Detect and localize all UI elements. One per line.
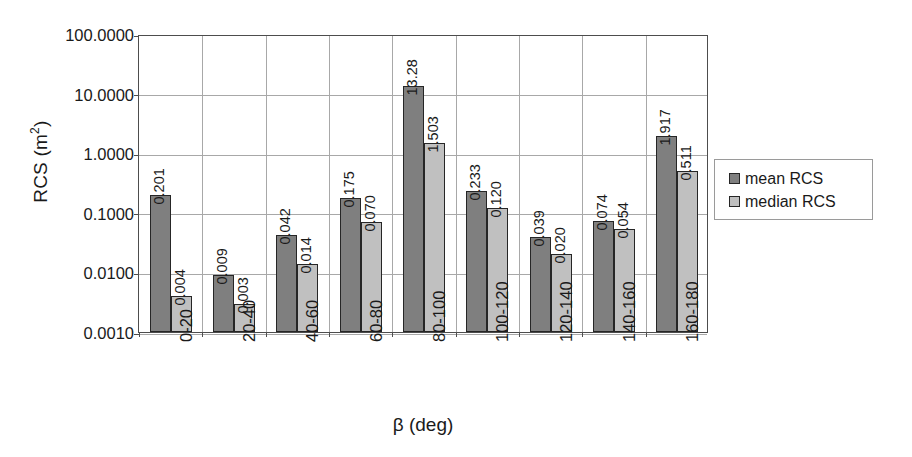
category-separator [329, 36, 330, 332]
y-axis-tick-labels: 100.000010.00001.00000.10000.01000.0010 [38, 0, 134, 457]
legend-item[interactable]: mean RCS [729, 167, 872, 190]
bar-value-label: 0.511 [679, 145, 694, 180]
x-tick-mark [519, 332, 520, 337]
x-tick-mark [202, 332, 203, 337]
bar-value-label: 0.120 [489, 181, 504, 217]
x-tick-mark [329, 332, 330, 337]
legend-swatch-mean [729, 173, 740, 184]
bar-value-label: 0.070 [362, 195, 377, 231]
x-tick-mark [266, 332, 267, 337]
x-tick-mark [646, 332, 647, 337]
bar-value-label: 1.917 [658, 110, 673, 146]
bar-value-label: 0.009 [215, 248, 230, 284]
bar-mean-rcs [466, 191, 487, 332]
y-tick-mark [134, 155, 139, 156]
legend-item-label: mean RCS [745, 170, 823, 188]
bar-mean-rcs [530, 237, 551, 332]
bar-value-label: 0.004 [172, 269, 187, 305]
bar-value-label: 0.201 [151, 168, 166, 204]
bar-mean-rcs [593, 221, 614, 332]
y-tick-mark [134, 95, 139, 96]
x-tick-mark [456, 332, 457, 337]
y-tick-label: 0.0010 [38, 325, 134, 342]
bar-mean-rcs [656, 136, 677, 332]
bar-value-label: 0.039 [531, 210, 546, 246]
x-tick-label: 60-80 [368, 300, 385, 342]
bar-value-label: 0.054 [616, 202, 631, 238]
x-tick-label: 40-60 [304, 300, 321, 342]
legend-swatch-median [729, 196, 740, 207]
y-tick-label: 0.1000 [38, 206, 134, 223]
x-tick-label: 160-180 [684, 281, 701, 342]
x-tick-mark [392, 332, 393, 337]
y-tick-mark [134, 36, 139, 37]
bar-value-label: 13.28 [405, 59, 420, 95]
bar-value-label: 0.042 [278, 208, 293, 244]
y-tick-label: 10.0000 [38, 87, 134, 104]
bar-mean-rcs [340, 198, 361, 332]
x-tick-label: 100-120 [494, 281, 511, 342]
x-tick-mark [582, 332, 583, 337]
x-tick-label: 120-140 [558, 281, 575, 342]
x-axis-title: β (deg) [138, 414, 708, 436]
category-separator [392, 36, 393, 332]
category-separator [266, 36, 267, 332]
bar-value-label: 0.233 [468, 164, 483, 200]
y-tick-label: 100.0000 [38, 27, 134, 44]
x-tick-label: 80-100 [431, 291, 448, 342]
y-tick-label: 0.0100 [38, 265, 134, 282]
bar-mean-rcs [403, 86, 424, 332]
y-tick-label: 1.0000 [38, 146, 134, 163]
x-tick-label: 0-20 [178, 309, 195, 342]
y-tick-mark [134, 274, 139, 275]
bar-value-label: 0.175 [341, 172, 356, 208]
legend-item[interactable]: median RCS [729, 190, 872, 213]
category-separator [519, 36, 520, 332]
bar-mean-rcs [276, 235, 297, 332]
x-tick-label: 140-160 [621, 281, 638, 342]
chart-legend: mean RCSmedian RCS [714, 159, 873, 220]
category-separator [202, 36, 203, 332]
bar-value-label: 0.014 [299, 237, 314, 273]
legend-item-label: median RCS [745, 193, 836, 211]
bar-value-label: 1.503 [426, 116, 441, 152]
category-separator [456, 36, 457, 332]
bar-value-label: 0.074 [595, 194, 610, 230]
bar-value-label: 0.020 [552, 228, 567, 264]
category-separator [646, 36, 647, 332]
y-tick-mark [134, 214, 139, 215]
category-separator [582, 36, 583, 332]
bar-mean-rcs [150, 195, 171, 332]
x-tick-label: 20-40 [241, 300, 258, 342]
rcs-bar-chart: RCS (m2) 100.000010.00001.00000.10000.01… [0, 0, 912, 457]
x-tick-mark [139, 332, 140, 337]
